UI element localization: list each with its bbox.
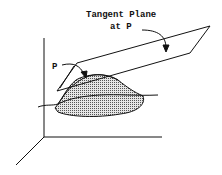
tangent-plane-diagram: Tangent Plane at P P bbox=[0, 0, 222, 175]
plane-label-line2: at P bbox=[110, 22, 132, 32]
point-label: P bbox=[52, 62, 58, 72]
x-axis bbox=[16, 137, 44, 165]
tangent-plane bbox=[57, 26, 210, 91]
plane-label-line1: Tangent Plane bbox=[86, 10, 156, 20]
surface bbox=[38, 75, 158, 117]
diagram-canvas: Tangent Plane at P P bbox=[0, 0, 222, 175]
